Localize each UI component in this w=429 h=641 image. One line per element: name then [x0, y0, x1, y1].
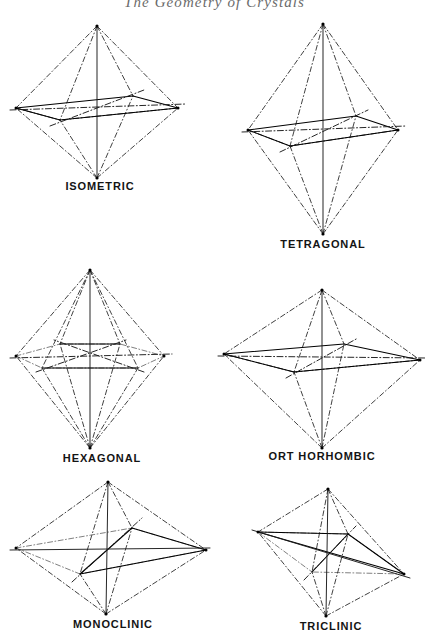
isometric-diagram [2, 22, 198, 182]
caption-tetragonal: TETRAGONAL [228, 238, 418, 250]
tetragonal-diagram [228, 20, 418, 238]
caption-monoclinic: MONOCLINIC [10, 618, 216, 630]
monoclinic-diagram [10, 478, 216, 620]
caption-triclinic: TRICLINIC [238, 620, 424, 632]
triclinic-diagram [238, 486, 424, 622]
figure-page: The Geometry of Crystals [0, 0, 429, 641]
isometric-axes [10, 26, 186, 178]
hexagonal-diagram [2, 266, 202, 452]
caption-orthorhombic: ORT HORHOMBIC [216, 450, 428, 462]
hexagonal-axes [10, 270, 172, 448]
orthorhombic-diagram [216, 288, 428, 452]
figure-monoclinic: MONOCLINIC [10, 478, 216, 640]
caption-hexagonal: HEXAGONAL [2, 452, 202, 464]
figure-hexagonal: HEXAGONAL [2, 266, 202, 470]
figure-orthorhombic: ORT HORHOMBIC [216, 288, 428, 470]
tetragonal-axes [242, 24, 406, 234]
running-head: The Geometry of Crystals [0, 0, 429, 11]
monoclinic-visible-edges [80, 528, 206, 574]
caption-isometric: ISOMETRIC [2, 180, 198, 192]
orthorhombic-axes [218, 290, 426, 448]
figure-isometric: ISOMETRIC [2, 22, 198, 198]
figure-triclinic: TRICLINIC [238, 486, 424, 640]
figure-tetragonal: TETRAGONAL [228, 20, 418, 260]
